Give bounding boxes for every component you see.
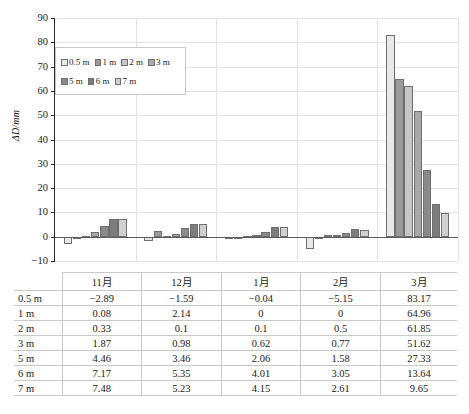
table-row-header: 6 m — [14, 366, 62, 381]
legend-item[interactable]: 3 m — [148, 58, 170, 67]
legend-label: 7 m — [123, 77, 137, 86]
bar[interactable] — [100, 226, 108, 237]
bar-group — [216, 18, 297, 261]
bar-slot — [199, 18, 208, 261]
table-column-header: 2月 — [301, 273, 381, 291]
table-row-header: 2 m — [14, 321, 62, 336]
legend-label: 2 m — [129, 58, 143, 67]
bar-slot — [404, 18, 413, 261]
legend-label: 3 m — [156, 58, 170, 67]
table-cell: 0.77 — [301, 336, 381, 351]
table-row-header: 0.5 m — [14, 291, 62, 306]
bar-group-bars — [297, 18, 378, 261]
table-row: 5 m4.463.462.061.5827.33 — [14, 351, 457, 366]
table-row: 3 m1.870.980.620.7751.62 — [14, 336, 457, 351]
bar[interactable] — [109, 219, 117, 236]
table-cell: 61.85 — [380, 321, 457, 336]
bar-group — [297, 18, 378, 261]
legend-label: 6 m — [96, 77, 110, 86]
table-row: 6 m7.175.354.013.0513.64 — [14, 366, 457, 381]
bar-group — [377, 18, 458, 261]
table-column-header: 3月 — [380, 273, 457, 291]
bar[interactable] — [432, 204, 440, 237]
bar-slot — [360, 18, 369, 261]
table-cell: 9.65 — [380, 381, 457, 396]
bar[interactable] — [351, 229, 359, 236]
bar[interactable] — [423, 170, 431, 236]
bar[interactable] — [280, 227, 288, 237]
y-tick-label: 20 — [38, 183, 49, 193]
horizontal-gridline — [55, 261, 458, 262]
legend-swatch-icon — [115, 78, 122, 85]
table-cell: 2.61 — [301, 381, 381, 396]
bar-slot — [422, 18, 431, 261]
bar-slot — [440, 18, 449, 261]
bar[interactable] — [306, 237, 314, 250]
legend-item[interactable]: 0.5 m — [61, 58, 90, 67]
table-cell: 0.98 — [142, 336, 222, 351]
legend-swatch-icon — [61, 59, 68, 66]
bar[interactable] — [118, 219, 126, 237]
table-cell: −5.15 — [301, 291, 381, 306]
table-body: 0.5 m−2.89−1.59−0.04−5.1583.171 m0.082.1… — [14, 291, 457, 396]
legend-swatch-icon — [61, 78, 68, 85]
table-cell: 0.1 — [142, 321, 222, 336]
table-cell: 4.15 — [221, 381, 301, 396]
bar-slot — [234, 18, 243, 261]
legend-item[interactable]: 1 m — [95, 58, 117, 67]
bar[interactable] — [64, 237, 72, 244]
category-separator-gridline — [458, 18, 459, 261]
table-cell: 1.87 — [62, 336, 142, 351]
zero-baseline — [55, 237, 458, 238]
legend-swatch-icon — [88, 78, 95, 85]
legend-item[interactable]: 5 m — [61, 77, 83, 86]
table-cell: 7.17 — [62, 366, 142, 381]
bar-slot — [252, 18, 261, 261]
legend-label: 0.5 m — [69, 58, 90, 67]
chart-figure: ΔD/mm 9080706050403020100−10 0.5 m1 m2 m… — [0, 0, 469, 414]
table-cell: 5.23 — [142, 381, 222, 396]
legend-item[interactable]: 7 m — [115, 77, 137, 86]
table-cell: 2.14 — [142, 306, 222, 321]
table-cell: 0 — [301, 306, 381, 321]
y-tick-label: 50 — [38, 110, 49, 120]
bar-slot — [225, 18, 234, 261]
bar-slot — [279, 18, 288, 261]
bar-slot — [386, 18, 395, 261]
legend-label: 5 m — [69, 77, 83, 86]
table-cell: 5.35 — [142, 366, 222, 381]
bar[interactable] — [386, 35, 394, 237]
legend-item[interactable]: 6 m — [88, 77, 110, 86]
y-tick-label: 40 — [38, 135, 49, 145]
table-cell: −2.89 — [62, 291, 142, 306]
table-row-header: 7 m — [14, 381, 62, 396]
table-cell: 0 — [221, 306, 301, 321]
bar[interactable] — [271, 227, 279, 237]
bar[interactable] — [414, 111, 422, 236]
bar-slot — [431, 18, 440, 261]
bar[interactable] — [190, 224, 198, 237]
table-cell: 0.5 — [301, 321, 381, 336]
legend-swatch-icon — [121, 59, 128, 66]
table-cell: 4.01 — [221, 366, 301, 381]
y-tick-mark — [51, 261, 55, 262]
bar[interactable] — [395, 79, 403, 237]
bar[interactable] — [404, 86, 412, 236]
table-corner-cell — [14, 273, 62, 291]
legend-label: 1 m — [103, 58, 117, 67]
legend-item[interactable]: 2 m — [121, 58, 143, 67]
bar[interactable] — [199, 224, 207, 237]
table-row-header: 1 m — [14, 306, 62, 321]
bar-slot — [314, 18, 323, 261]
bar[interactable] — [181, 228, 189, 236]
data-table: 11月12月1月2月3月 0.5 m−2.89−1.59−0.04−5.1583… — [14, 272, 457, 396]
bar-slot — [305, 18, 314, 261]
bar[interactable] — [441, 213, 449, 236]
table-header: 11月12月1月2月3月 — [14, 273, 457, 291]
y-tick-label: 80 — [38, 37, 49, 47]
legend-swatch-icon — [148, 59, 155, 66]
table-row: 7 m7.485.234.152.619.65 — [14, 381, 457, 396]
bar-slot — [413, 18, 422, 261]
table-column-header: 12月 — [142, 273, 222, 291]
table-cell: −0.04 — [221, 291, 301, 306]
